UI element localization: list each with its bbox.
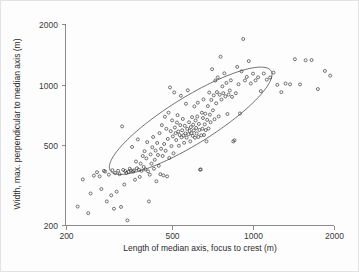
data-point bbox=[139, 162, 142, 165]
data-point bbox=[156, 153, 159, 156]
data-point bbox=[223, 72, 226, 75]
data-point bbox=[262, 72, 265, 75]
data-point bbox=[200, 111, 203, 114]
data-point bbox=[163, 115, 166, 118]
data-point bbox=[284, 82, 287, 85]
data-point bbox=[189, 126, 192, 129]
data-point bbox=[98, 175, 101, 178]
data-point bbox=[192, 123, 195, 126]
data-point bbox=[226, 113, 229, 116]
y-tick-label-200: 200 bbox=[44, 221, 58, 231]
data-point bbox=[220, 98, 223, 101]
data-point bbox=[143, 150, 146, 153]
y-tick-group bbox=[62, 25, 66, 226]
data-point bbox=[162, 174, 165, 177]
data-point bbox=[171, 135, 174, 138]
data-point bbox=[92, 174, 95, 177]
data-point bbox=[215, 91, 218, 94]
data-point bbox=[175, 121, 178, 124]
data-point bbox=[168, 86, 171, 89]
data-point bbox=[179, 94, 182, 97]
data-point bbox=[141, 154, 144, 157]
data-point bbox=[185, 136, 188, 139]
data-point bbox=[272, 71, 275, 74]
data-point bbox=[211, 68, 214, 71]
data-point bbox=[219, 55, 222, 58]
data-point bbox=[158, 132, 161, 135]
data-point bbox=[167, 111, 170, 114]
data-point bbox=[145, 157, 148, 160]
data-point bbox=[155, 180, 158, 183]
data-point bbox=[166, 137, 169, 140]
data-point bbox=[188, 121, 191, 124]
data-point bbox=[95, 171, 98, 174]
data-point bbox=[152, 136, 155, 139]
data-point bbox=[131, 145, 134, 148]
data-point bbox=[196, 115, 199, 118]
data-point-group bbox=[76, 38, 331, 222]
x-tick-label-1000: 1000 bbox=[244, 231, 263, 241]
data-point bbox=[154, 149, 157, 152]
data-point bbox=[198, 128, 201, 131]
data-point bbox=[237, 83, 240, 86]
data-point bbox=[234, 92, 237, 95]
data-point bbox=[176, 114, 179, 117]
data-point bbox=[136, 138, 139, 141]
data-point bbox=[147, 200, 150, 203]
data-point bbox=[184, 132, 187, 135]
data-point bbox=[206, 118, 209, 121]
data-point bbox=[257, 76, 260, 79]
data-point bbox=[172, 152, 175, 155]
data-point bbox=[203, 123, 206, 126]
data-point bbox=[206, 105, 209, 108]
data-point bbox=[212, 94, 215, 97]
data-point bbox=[209, 121, 212, 124]
data-point bbox=[121, 125, 124, 128]
data-point bbox=[215, 102, 218, 105]
data-point bbox=[195, 132, 198, 135]
data-point bbox=[173, 91, 176, 94]
data-point bbox=[204, 112, 207, 115]
data-point bbox=[243, 79, 246, 82]
data-point bbox=[160, 124, 163, 127]
data-point bbox=[197, 123, 200, 126]
data-point bbox=[87, 212, 90, 215]
data-point bbox=[175, 139, 178, 142]
data-point bbox=[195, 126, 198, 129]
data-point bbox=[254, 79, 257, 82]
data-point bbox=[170, 145, 173, 148]
data-point bbox=[247, 60, 250, 63]
data-point bbox=[229, 79, 232, 82]
data-point bbox=[150, 162, 153, 165]
data-point bbox=[242, 38, 245, 41]
data-point bbox=[186, 89, 189, 92]
data-point bbox=[117, 169, 120, 172]
data-point bbox=[265, 78, 268, 81]
data-point bbox=[293, 58, 296, 61]
data-point bbox=[134, 160, 137, 163]
data-point bbox=[111, 169, 114, 172]
data-point bbox=[123, 183, 126, 186]
data-point bbox=[207, 127, 210, 130]
data-point bbox=[221, 85, 224, 88]
data-point bbox=[163, 142, 166, 145]
data-point bbox=[193, 136, 196, 139]
data-point bbox=[280, 91, 283, 94]
data-point bbox=[151, 146, 154, 149]
data-point bbox=[126, 219, 129, 222]
data-point bbox=[161, 154, 164, 157]
data-point bbox=[208, 91, 211, 94]
data-point bbox=[110, 194, 113, 197]
data-point bbox=[249, 82, 252, 85]
data-point bbox=[202, 98, 205, 101]
data-point bbox=[194, 119, 197, 122]
data-point bbox=[181, 129, 184, 132]
data-point bbox=[100, 188, 103, 191]
data-point bbox=[183, 141, 186, 144]
data-point bbox=[299, 83, 302, 86]
y-axis-title: Width, max. perpendicular to median axis… bbox=[12, 38, 22, 209]
data-point bbox=[173, 126, 176, 129]
x-axis: 20050010002000 bbox=[59, 226, 344, 242]
data-point bbox=[171, 119, 174, 122]
data-point bbox=[164, 149, 167, 152]
